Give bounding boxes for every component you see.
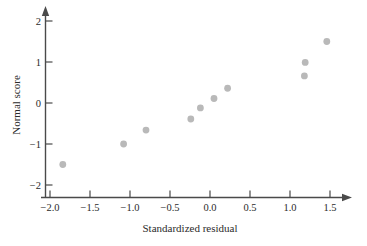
data-point — [197, 105, 204, 112]
normal-probability-plot-figure: 2 1 0 −1 −2 −2.0 −1.5 −1.0 −0.5 0.0 0.5 … — [0, 0, 367, 246]
x-tick-label-1_5: 1.5 — [323, 202, 336, 213]
y-tick-label-neg1: −1 — [30, 139, 41, 150]
x-tick-label-0_0: 0.0 — [203, 202, 216, 213]
x-tick-label-neg1_5: −1.5 — [80, 202, 99, 213]
y-tick-label-0: 0 — [36, 98, 41, 109]
data-point-series — [59, 38, 330, 168]
data-point — [302, 59, 309, 66]
x-axis-title: Standardized residual — [143, 222, 238, 234]
x-axis-arrow-icon — [342, 194, 352, 201]
data-point — [301, 73, 308, 80]
x-tick-label-0_5: 0.5 — [243, 202, 256, 213]
data-point — [224, 85, 231, 92]
data-point — [323, 38, 330, 45]
y-axis-arrow-icon — [42, 6, 49, 16]
y-tick-label-2: 2 — [36, 16, 41, 27]
y-tick-label-1: 1 — [36, 57, 41, 68]
y-tick-label-neg2: −2 — [30, 180, 41, 191]
x-tick-label-neg0_5: −0.5 — [160, 202, 179, 213]
x-tick-label-neg2_0: −2.0 — [40, 202, 59, 213]
x-tick-marks — [50, 191, 330, 198]
data-point — [211, 95, 218, 102]
y-tick-marks — [46, 21, 53, 185]
y-tick-labels: 2 1 0 −1 −2 — [30, 16, 41, 191]
x-tick-label-neg1_0: −1.0 — [120, 202, 139, 213]
x-tick-labels: −2.0 −1.5 −1.0 −0.5 0.0 0.5 1.0 1.5 — [40, 202, 336, 213]
data-point — [120, 141, 127, 148]
y-axis — [42, 6, 49, 197]
x-tick-label-1_0: 1.0 — [283, 202, 296, 213]
data-point — [59, 161, 66, 168]
y-axis-title: Normal score — [10, 75, 22, 135]
data-point — [187, 116, 194, 123]
scatter-plot-canvas: 2 1 0 −1 −2 −2.0 −1.5 −1.0 −0.5 0.0 0.5 … — [0, 0, 367, 246]
data-point — [143, 127, 150, 134]
x-axis — [41, 194, 352, 201]
